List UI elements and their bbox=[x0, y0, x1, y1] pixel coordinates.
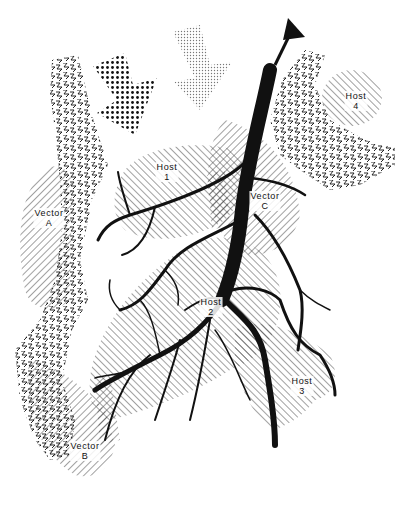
vector-c-label: Vector C bbox=[249, 191, 280, 211]
host-2-label: Host 2 bbox=[200, 297, 223, 317]
vector-a-label: Vector A bbox=[33, 208, 64, 228]
host-4-name: Host bbox=[346, 91, 367, 101]
host-3-id: 3 bbox=[292, 386, 313, 396]
host-4-label: Host 4 bbox=[345, 91, 368, 111]
host-4-id: 4 bbox=[346, 101, 367, 111]
host-2-id: 2 bbox=[201, 307, 222, 317]
vector-b-label: Vector B bbox=[69, 441, 100, 461]
vector-b-name: Vector bbox=[70, 441, 99, 451]
vector-c-name: Vector bbox=[250, 191, 279, 201]
host-1-id: 1 bbox=[157, 172, 178, 182]
vector-c-id: C bbox=[250, 201, 279, 211]
host-3-region bbox=[235, 324, 335, 430]
vector-a-id: A bbox=[34, 218, 63, 228]
host-1-label: Host 1 bbox=[156, 162, 179, 182]
light-dotted-arrow bbox=[173, 25, 232, 110]
vector-a-name: Vector bbox=[34, 208, 63, 218]
host-3-name: Host bbox=[292, 376, 313, 386]
host-vector-diagram bbox=[0, 0, 411, 505]
host-2-name: Host bbox=[201, 297, 222, 307]
host-1-name: Host bbox=[157, 162, 178, 172]
zigzag-band-right bbox=[270, 50, 395, 190]
vector-b-id: B bbox=[70, 451, 99, 461]
dark-dotted-arrow bbox=[93, 53, 157, 135]
host-3-label: Host 3 bbox=[291, 376, 314, 396]
